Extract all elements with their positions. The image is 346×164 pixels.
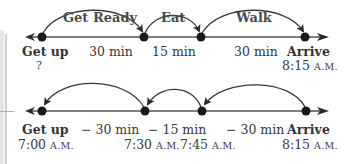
time-value: 7:00 [18, 137, 46, 152]
point-dot [197, 33, 206, 42]
arc-label-walk: Walk [236, 11, 272, 24]
point-time-unknown: ? [36, 60, 42, 71]
arc-arrow-back-walk [205, 85, 305, 107]
point-time-arrive: 8:15 A.M. [282, 139, 338, 152]
point-label-get-up: Get up [22, 46, 69, 59]
time-suffix: A.M. [314, 140, 338, 151]
point-dot [141, 107, 150, 116]
interval-label: − 15 min [148, 124, 206, 137]
arc-arrow-back-get-ready [45, 83, 144, 107]
point-dot [302, 107, 311, 116]
interval-label: − 30 min [226, 124, 284, 137]
interval-label: − 30 min [81, 124, 139, 137]
interval-label: 15 min [152, 46, 196, 59]
point-dot [140, 33, 149, 42]
time-suffix: A.M. [156, 140, 180, 151]
time-value: 8:15 [282, 137, 310, 152]
bottom-number-line [25, 83, 329, 115]
point-dot [301, 33, 310, 42]
point-dot [198, 107, 207, 116]
point-label-get-up: Get up [22, 124, 69, 137]
time-suffix: A.M. [212, 140, 236, 151]
time-value: 7:45 [180, 137, 208, 152]
point-dot [38, 107, 47, 116]
point-label-arrive: Arrive [287, 46, 330, 59]
point-label-arrive: Arrive [287, 124, 330, 137]
point-time-7-45: 7:45 A.M. [180, 139, 236, 152]
interval-label: 30 min [234, 46, 278, 59]
interval-label: 30 min [89, 46, 133, 59]
point-time-arrive: 8:15 A.M. [282, 60, 338, 73]
point-time-get-up: 7:00 A.M. [18, 139, 74, 152]
time-suffix: A.M. [50, 140, 74, 151]
point-dot [38, 33, 47, 42]
time-value: 7:30 [124, 137, 152, 152]
point-time-7-30: 7:30 A.M. [124, 139, 180, 152]
time-value: 8:15 [282, 58, 310, 73]
time-suffix: A.M. [314, 61, 338, 72]
arc-arrow-back-eat [148, 89, 201, 107]
arc-label-get-ready: Get Ready [63, 11, 137, 24]
arc-label-eat: Eat [161, 11, 185, 24]
